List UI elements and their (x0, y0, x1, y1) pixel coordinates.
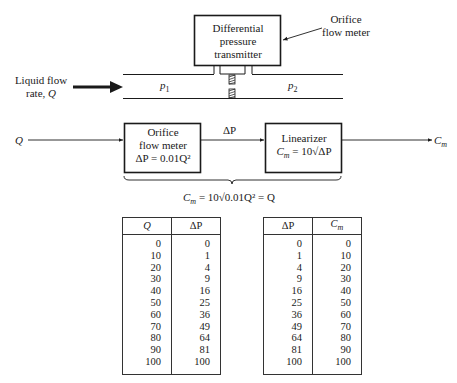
orifice-callout-label: Orifice flow meter (318, 13, 374, 39)
connector-label: ΔP (223, 124, 236, 136)
grouping-brace (124, 176, 341, 184)
orifice-mount (220, 65, 245, 74)
table-cell: 40 (313, 285, 362, 297)
flow-to-pressure-table: Q ΔP 00101204309401650256036704980649081… (122, 217, 221, 375)
table-row: 8190 (264, 344, 362, 356)
table-cell: 16 (172, 285, 221, 297)
table-cell: 60 (313, 309, 362, 321)
table-cell: 70 (313, 321, 362, 333)
table-row: 100100 (264, 356, 362, 374)
table-cell: 0 (172, 235, 221, 250)
column-header: ΔP (264, 218, 313, 235)
table-cell: 9 (264, 273, 313, 285)
table-cell: 25 (172, 297, 221, 309)
table-row: 6036 (123, 309, 221, 321)
overall-equation: Cm = 10√0.01Q² = Q (183, 191, 275, 208)
block-linearizer-label: Linearizer Cm = 10√ΔP (265, 132, 343, 162)
table-cell: 9 (172, 273, 221, 285)
table-cell: 20 (313, 262, 362, 274)
table-row: 4016 (123, 285, 221, 297)
table-cell: 10 (313, 250, 362, 262)
table-row: 3660 (264, 309, 362, 321)
table-body: 0011042093016402550366049706480819010010… (264, 235, 362, 375)
cm-subscript: m (441, 140, 447, 149)
table-row: 204 (123, 262, 221, 274)
table-row: 7049 (123, 321, 221, 333)
table-row: 930 (264, 273, 362, 285)
block-line: flow meter (124, 139, 202, 152)
table-row: 8064 (123, 332, 221, 344)
block-equation: Cm = 10√ΔP (265, 145, 343, 162)
equation-rhs: = 10√ΔP (290, 145, 332, 157)
table-row: 2550 (264, 297, 362, 309)
table-cell: 80 (123, 332, 172, 344)
table-cell: 16 (264, 285, 313, 297)
table-cell: 60 (123, 309, 172, 321)
table-cell: 49 (264, 321, 313, 333)
table-cell: 40 (123, 285, 172, 297)
block-line: Orifice (124, 126, 202, 139)
equation-rhs: = 10√0.01Q² = Q (196, 191, 275, 203)
table-cell: 20 (123, 262, 172, 274)
downstream-pressure-label: p2 (288, 79, 298, 96)
table-cell: 100 (123, 356, 172, 374)
table-cell: 50 (123, 297, 172, 309)
table-cell: 64 (264, 332, 313, 344)
table-cell: 81 (264, 344, 313, 356)
block-line: Linearizer (265, 132, 343, 145)
block-equation: ΔP = 0.01Q² (124, 152, 202, 165)
table-cell: 50 (313, 297, 362, 309)
table-cell: 90 (313, 344, 362, 356)
table-cell: 4 (264, 262, 313, 274)
block-orifice-label: Orifice flow meter ΔP = 0.01Q² (124, 126, 202, 165)
table-cell: 0 (264, 235, 313, 250)
table-cell: 100 (172, 356, 221, 374)
table-row: 00 (264, 235, 362, 250)
table-cell: 30 (123, 273, 172, 285)
upstream-pressure-label: p1 (160, 79, 170, 96)
callout-arrow (283, 28, 322, 40)
column-header: Cm (313, 218, 362, 235)
table-body: 0010120430940165025603670498064908110010… (123, 235, 221, 375)
input-label: Q (15, 134, 23, 146)
p-subscript: 1 (166, 85, 170, 94)
column-header: Q (123, 218, 172, 235)
flow-symbol: Q (48, 87, 56, 99)
table-row: 9081 (123, 344, 221, 356)
table-cell: 49 (172, 321, 221, 333)
table-row: 100100 (123, 356, 221, 374)
orifice-plate (229, 75, 235, 98)
table-cell: 64 (172, 332, 221, 344)
table-cell: 30 (313, 273, 362, 285)
table-cell: 0 (313, 235, 362, 250)
table-cell: 36 (264, 309, 313, 321)
table-cell: 1 (172, 250, 221, 262)
table-cell: 10 (123, 250, 172, 262)
pressure-to-output-table: ΔP Cm 0011042093016402550366049706480819… (263, 217, 362, 375)
table-cell: 70 (123, 321, 172, 333)
inlet-label-text: rate, (26, 87, 48, 99)
inlet-label-line: Liquid flow (10, 74, 72, 87)
p-subscript: 2 (294, 85, 298, 94)
table-row: 4970 (264, 321, 362, 333)
table-row: 1640 (264, 285, 362, 297)
table-row: 00 (123, 235, 221, 250)
table-row: 309 (123, 273, 221, 285)
table-cell: 100 (264, 356, 313, 374)
table-row: 5025 (123, 297, 221, 309)
output-label: Cm (434, 134, 447, 151)
table-cell: 0 (123, 235, 172, 250)
inlet-label-line: rate, Q (10, 87, 72, 100)
callout-line: flow meter (318, 26, 374, 39)
table-cell: 1 (264, 250, 313, 262)
table-row: 420 (264, 262, 362, 274)
transmitter-label-line: pressure (194, 35, 282, 48)
table-cell: 4 (172, 262, 221, 274)
table-row: 101 (123, 250, 221, 262)
column-header: ΔP (172, 218, 221, 235)
cm-symbol: C (276, 145, 283, 157)
table-cell: 36 (172, 309, 221, 321)
callout-line: Orifice (318, 13, 374, 26)
table-cell: 100 (313, 356, 362, 374)
transmitter-label: Differential pressure transmitter (194, 22, 282, 61)
